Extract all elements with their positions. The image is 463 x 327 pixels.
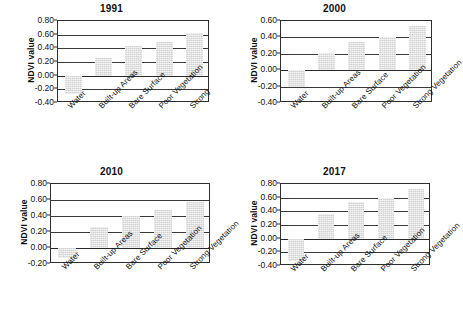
y-tick-label: 0.20	[30, 226, 50, 236]
chart-title: 1991	[0, 3, 223, 14]
chart-panel-2010: 2010NDVI value0.800.600.400.200.00-0.20W…	[0, 163, 223, 327]
y-tick-label: 0.40	[37, 42, 57, 52]
chart-panel-2000: 2000NDVI value0.600.400.200.00-0.20-0.40…	[223, 0, 446, 163]
y-tick-label: 0.40	[260, 31, 280, 41]
y-axis-label: NDVI value	[249, 195, 259, 251]
y-tick-label: 0.20	[37, 56, 57, 66]
y-tick-label: 0.20	[260, 48, 280, 58]
y-tick-label: 0.80	[30, 178, 50, 188]
y-tick-label: 0.60	[260, 15, 280, 25]
y-tick-label: 0.20	[260, 219, 280, 229]
y-tick-label: -0.20	[258, 81, 280, 91]
y-tick-label: 0.40	[30, 210, 50, 220]
chart-title: 2017	[223, 166, 446, 177]
y-tick-label: 0.00	[260, 233, 280, 243]
y-axis-label: NDVI value	[19, 194, 29, 250]
y-tick-label: 0.00	[260, 64, 280, 74]
y-tick-label: 0.80	[37, 15, 57, 25]
chart-panel-2017: 2017NDVI value0.800.600.400.200.00-0.20-…	[223, 163, 446, 327]
y-tick-label: 0.60	[260, 192, 280, 202]
chart-title: 2000	[223, 3, 446, 14]
chart-title: 2010	[0, 166, 223, 177]
chart-panel-1991: 1991NDVI value0.800.600.400.200.00-0.20-…	[0, 0, 223, 163]
y-tick-label: 0.00	[30, 242, 50, 252]
y-tick-label: -0.20	[35, 83, 57, 93]
y-tick-label: -0.40	[35, 97, 57, 107]
y-tick-label: 0.40	[260, 205, 280, 215]
y-tick-label: -0.20	[258, 246, 280, 256]
y-tick-label: -0.40	[258, 97, 280, 107]
y-tick-label: -0.20	[28, 258, 50, 268]
y-tick-label: -0.40	[258, 260, 280, 270]
y-axis-label: NDVI value	[249, 32, 259, 88]
y-tick-label: 0.60	[30, 194, 50, 204]
y-tick-label: 0.80	[260, 178, 280, 188]
y-tick-label: 0.00	[37, 70, 57, 80]
y-tick-label: 0.60	[37, 29, 57, 39]
y-axis-label: NDVI value	[26, 32, 36, 88]
